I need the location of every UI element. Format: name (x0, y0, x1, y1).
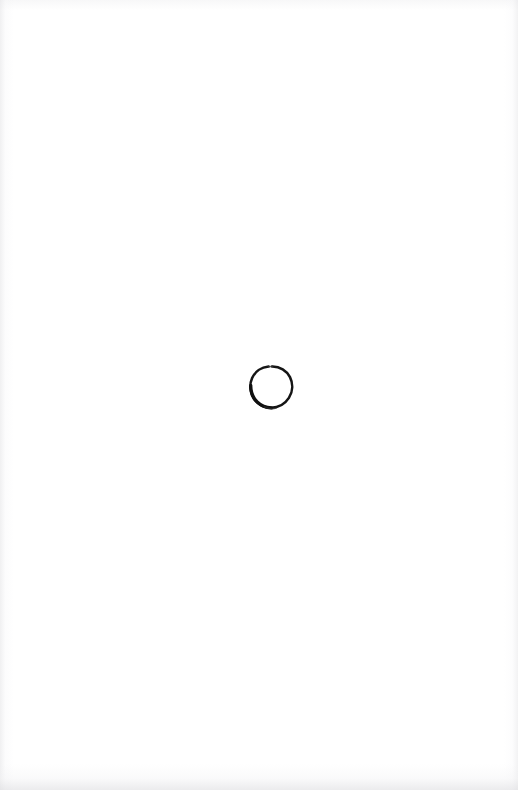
paper-surface (0, 0, 518, 790)
scanned-page (0, 0, 518, 790)
